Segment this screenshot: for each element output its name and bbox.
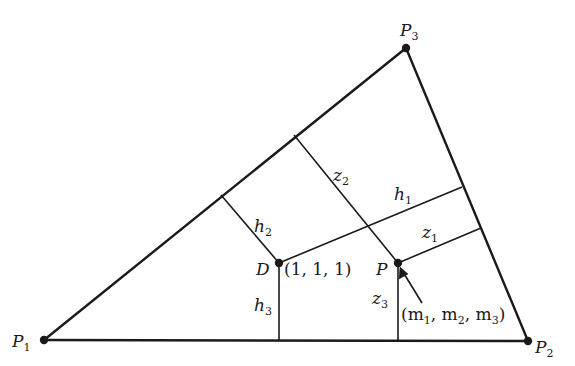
label-p1: P1: [11, 331, 30, 354]
label-p2: P2: [534, 337, 553, 360]
label-z2: z2: [332, 165, 349, 188]
edge-p2-p3: [406, 48, 528, 341]
segment-z2: [294, 135, 398, 263]
segment-z1: [398, 228, 481, 263]
vertex-p3-dot: [402, 44, 410, 52]
point-d-dot: [275, 259, 283, 267]
vertex-p2-dot: [524, 337, 532, 345]
arrow-to-p: [399, 267, 422, 303]
triangle: [44, 48, 528, 341]
segment-h1: [279, 187, 462, 263]
label-d-coords: (1, 1, 1): [284, 259, 351, 279]
triangle-diagram: P1 P2 P3 D (1, 1, 1) P (m1, m2, m3) h1 h…: [0, 0, 575, 366]
label-h3: h3: [254, 295, 272, 318]
vertex-dots: [40, 44, 532, 345]
point-p-dot: [394, 259, 402, 267]
label-z1: z1: [421, 222, 438, 245]
edge-p1-p3: [44, 48, 406, 340]
label-z3: z3: [371, 288, 388, 311]
label-h1: h1: [394, 184, 412, 207]
vertex-p1-dot: [40, 336, 48, 344]
label-h2: h2: [254, 216, 272, 239]
label-p3: P3: [399, 20, 418, 43]
label-p: P: [375, 259, 388, 279]
label-d: D: [255, 259, 270, 279]
label-p-coords: (m1, m2, m3): [401, 304, 505, 327]
edge-p1-p2: [44, 340, 528, 341]
